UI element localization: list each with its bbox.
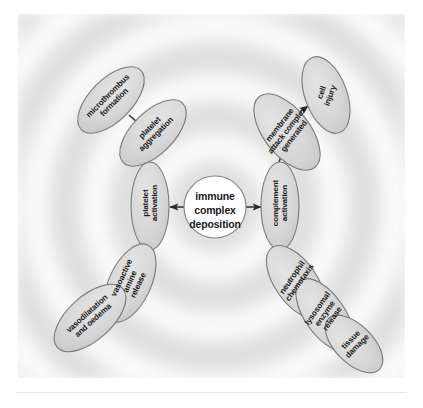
node-shape-immune-complex-deposition[interactable] xyxy=(184,176,246,238)
diagram-panel: immune complex deposition platelet activ… xyxy=(18,14,405,378)
figure-canvas: immune complex deposition platelet activ… xyxy=(0,0,423,408)
node-shape-complement-activation[interactable] xyxy=(261,162,299,250)
node-shape-platelet-activation[interactable] xyxy=(131,162,169,250)
figure-bottom-rule xyxy=(16,392,407,393)
diagram-vector-layer xyxy=(18,14,405,378)
